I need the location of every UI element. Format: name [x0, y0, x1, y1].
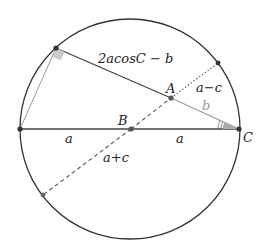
angle-C-marker — [223, 122, 239, 129]
label-B: B — [117, 113, 128, 128]
label-AQ: a−c — [196, 80, 223, 95]
angle-C-arc-2 — [218, 120, 220, 129]
segment-BA-dashed — [131, 98, 171, 129]
point-R — [41, 193, 46, 198]
label-AC: b — [202, 98, 210, 113]
label-LB: a — [65, 131, 73, 146]
point-B — [128, 126, 133, 131]
point-L — [17, 126, 22, 131]
label-BR: a+c — [103, 150, 130, 165]
point-P — [53, 45, 58, 50]
label-PA: 2acosC − b — [97, 51, 173, 66]
point-C — [236, 126, 241, 131]
label-BC: a — [176, 131, 184, 146]
point-Q — [216, 61, 221, 66]
chord-PL — [20, 48, 56, 129]
geometry-diagram: 2acosC − b A a−c b B C a a a+c — [0, 0, 271, 249]
point-A — [168, 95, 173, 100]
label-A: A — [165, 81, 175, 96]
angle-C-arc-1 — [221, 122, 223, 130]
label-C: C — [243, 130, 253, 145]
